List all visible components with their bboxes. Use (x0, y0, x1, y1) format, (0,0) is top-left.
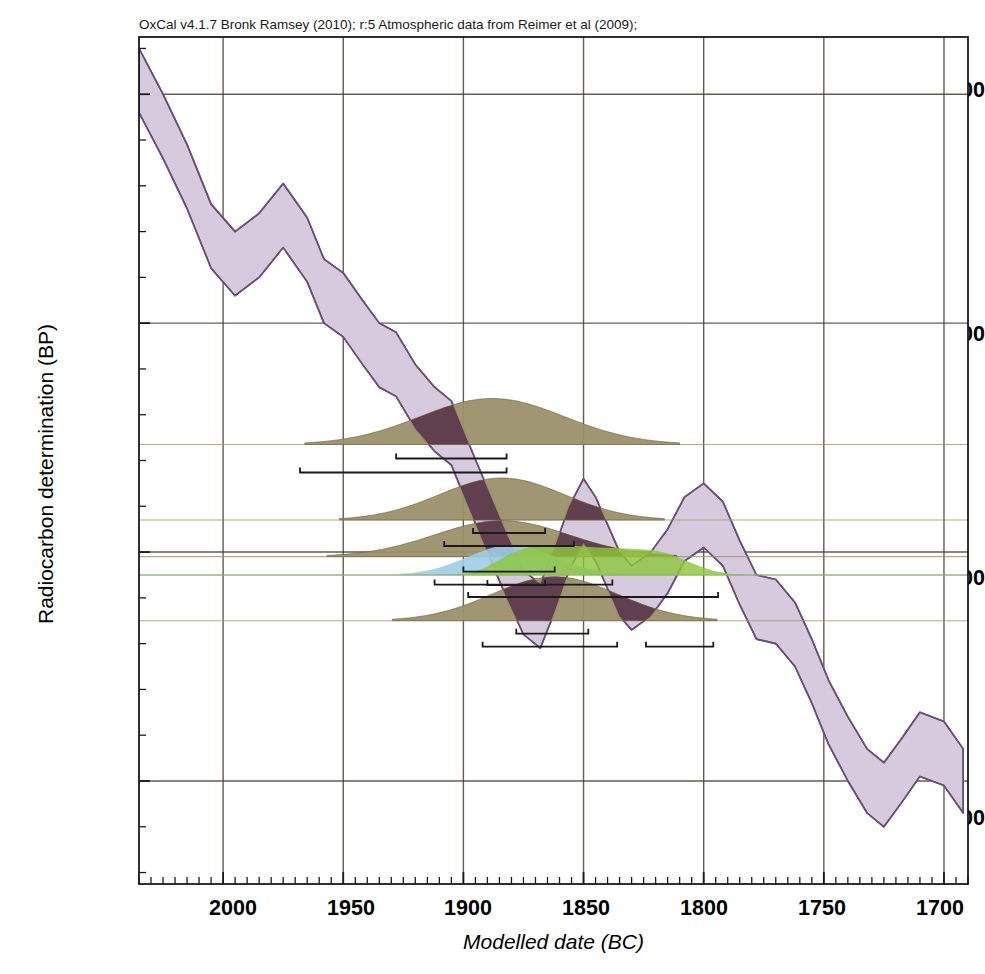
plot-canvas (0, 0, 985, 974)
oxcal-chart-figure: OxCal v4.1.7 Bronk Ramsey (2010); r:5 At… (0, 0, 985, 974)
